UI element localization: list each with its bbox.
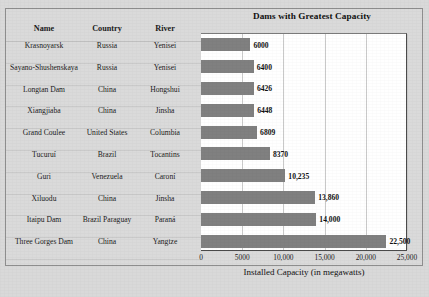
cell-river: Paraná xyxy=(134,216,196,224)
x-axis-tick-label: 10,000 xyxy=(273,253,293,262)
plot-area: 60006400642664486809837010,23513,86014,0… xyxy=(201,33,407,251)
x-axis-tick-label: 0 xyxy=(199,253,203,262)
bar-row: 8370 xyxy=(201,147,406,160)
bar-value-label: 13,860 xyxy=(315,193,339,202)
bar-value-label: 6400 xyxy=(254,62,272,71)
cell-name: Xiangjiaba xyxy=(8,107,80,115)
cell-river: Yenisei xyxy=(134,64,196,72)
column-header-country: Country xyxy=(80,25,134,33)
bar-value-label: 6426 xyxy=(254,84,272,93)
bar-value-label: 6809 xyxy=(257,128,275,137)
table-row: XiangjiabaChinaJinsha xyxy=(6,107,201,129)
table-row: Itaipu DamBrazil ParaguayParaná xyxy=(6,216,201,238)
cell-country: Brazil xyxy=(80,151,134,159)
bar-value-label: 22,500 xyxy=(386,237,410,246)
bar-row: 6448 xyxy=(201,104,406,117)
figure: NameCountryRiverKrasnoyarskRussiaYenisei… xyxy=(0,0,429,297)
bar-value-label: 6000 xyxy=(250,40,268,49)
bar-row: 14,000 xyxy=(201,213,406,226)
cell-name: Longtan Dam xyxy=(8,86,80,94)
cell-name: Three Gorges Dam xyxy=(8,238,80,246)
bar xyxy=(201,104,254,117)
table-row: TucuruíBrazilTocantins xyxy=(6,151,201,173)
bar xyxy=(201,235,386,248)
bar xyxy=(201,126,257,139)
chart-title: Dams with Greatest Capacity xyxy=(201,11,423,21)
bar-row: 13,860 xyxy=(201,191,406,204)
bar-row: 6000 xyxy=(201,38,406,51)
bar xyxy=(201,60,254,73)
cell-river: Yenisei xyxy=(134,42,196,50)
cell-country: Russia xyxy=(80,42,134,50)
column-header-name: Name xyxy=(8,25,80,33)
table-row: XiluoduChinaJinsha xyxy=(6,195,201,217)
bar-row: 6809 xyxy=(201,126,406,139)
x-axis-tick-label: 5000 xyxy=(235,253,250,262)
bar-value-label: 8370 xyxy=(270,149,288,158)
cell-country: Russia xyxy=(80,64,134,72)
column-header-river: River xyxy=(134,25,196,33)
bar-row: 22,500 xyxy=(201,235,406,248)
cell-country: China xyxy=(80,86,134,94)
bar xyxy=(201,169,285,182)
x-axis-tick-label: 20,000 xyxy=(356,253,376,262)
table-row: Three Gorges DamChinaYangtze xyxy=(6,238,201,260)
table-row: GuriVenezuelaCaroní xyxy=(6,173,201,195)
x-axis-tick-label: 15,000 xyxy=(314,253,334,262)
cell-name: Guri xyxy=(8,173,80,181)
bar-row: 6400 xyxy=(201,60,406,73)
table-row: Sayano-ShushenskayaRussiaYenisei xyxy=(6,64,201,86)
cell-country: Brazil Paraguay xyxy=(80,216,134,224)
cell-country: United States xyxy=(80,129,134,137)
x-axis-tick-label: 25,000 xyxy=(397,253,417,262)
cell-country: China xyxy=(80,195,134,203)
table-row: Grand CouleeUnited StatesColumbia xyxy=(6,129,201,151)
bar-row: 6426 xyxy=(201,82,406,95)
cell-name: Sayano-Shushenskaya xyxy=(8,64,80,72)
bar-value-label: 14,000 xyxy=(316,215,340,224)
cell-river: Caroní xyxy=(134,173,196,181)
gridline xyxy=(407,34,408,250)
cell-country: China xyxy=(80,238,134,246)
table-row: Longtan DamChinaHongshui xyxy=(6,86,201,108)
cell-name: Xiluodu xyxy=(8,195,80,203)
cell-river: Columbia xyxy=(134,129,196,137)
dams-table: NameCountryRiverKrasnoyarskRussiaYenisei… xyxy=(6,9,201,265)
bar xyxy=(201,147,270,160)
cell-name: Grand Coulee xyxy=(8,129,80,137)
cell-name: Itaipu Dam xyxy=(8,216,80,224)
cell-river: Hongshui xyxy=(134,86,196,94)
table-header-row: NameCountryRiver xyxy=(6,25,201,42)
bar xyxy=(201,213,316,226)
bar xyxy=(201,191,315,204)
cell-name: Krasnoyarsk xyxy=(8,42,80,50)
bar-row: 10,235 xyxy=(201,169,406,182)
bar-value-label: 6448 xyxy=(254,106,272,115)
bar-value-label: 10,235 xyxy=(285,171,309,180)
cell-country: China xyxy=(80,107,134,115)
bar xyxy=(201,82,254,95)
cell-river: Tocantins xyxy=(134,151,196,159)
cell-river: Jinsha xyxy=(134,107,196,115)
capacity-bar-chart: Dams with Greatest Capacity 600064006426… xyxy=(201,9,423,265)
cell-river: Yangtze xyxy=(134,238,196,246)
table-row: KrasnoyarskRussiaYenisei xyxy=(6,42,201,64)
cell-name: Tucuruí xyxy=(8,151,80,159)
x-axis-label: Installed Capacity (in megawatts) xyxy=(177,267,429,277)
bar xyxy=(201,38,250,51)
cell-country: Venezuela xyxy=(80,173,134,181)
cell-river: Jinsha xyxy=(134,195,196,203)
